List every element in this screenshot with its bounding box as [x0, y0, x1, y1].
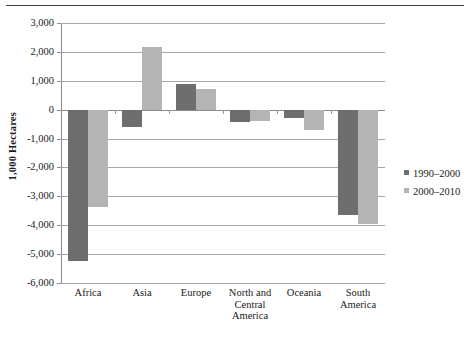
x-axis-category-label: Africa [61, 287, 115, 299]
y-axis-tick-label: 2,000 [30, 47, 54, 58]
bar [284, 110, 304, 118]
bar [142, 47, 162, 110]
x-axis-category-label: Europe [169, 287, 223, 299]
plot-area: 3,0002,0001,0000-1,000-2,000-3,000-4,000… [61, 23, 385, 283]
y-axis-tick [57, 254, 61, 255]
y-axis-tick [57, 167, 61, 168]
y-axis-tick-label: -2,000 [27, 162, 54, 173]
gridline-3000 [61, 23, 385, 24]
legend-item: 2000–2010 [404, 186, 460, 197]
x-axis-category-label: Oceania [277, 287, 331, 299]
y-axis-tick-label: -6,000 [27, 278, 54, 289]
y-axis-tick [57, 196, 61, 197]
y-axis-tick-label: -4,000 [27, 220, 54, 231]
bar [122, 110, 142, 127]
chart-legend: 1990–20002000–2010 [404, 168, 460, 204]
bar [250, 110, 270, 122]
y-axis-tick [57, 139, 61, 140]
x-axis-category-label: Asia [115, 287, 169, 299]
x-axis-category-label: South America [331, 287, 385, 310]
legend-swatch-icon [404, 188, 409, 193]
bar [304, 110, 324, 130]
legend-item: 1990–2000 [404, 168, 460, 179]
y-axis-line [61, 23, 62, 283]
gridline-2000 [61, 52, 385, 53]
gridline-1000 [61, 81, 385, 82]
bar [338, 110, 358, 215]
y-axis-tick-label: -5,000 [27, 249, 54, 260]
bar [230, 110, 250, 122]
category-separator-tick [169, 110, 170, 114]
y-axis-tick [57, 110, 61, 111]
category-separator-tick [115, 110, 116, 114]
bar [88, 110, 108, 207]
gridline-neg1000 [61, 139, 385, 140]
y-axis-tick [57, 225, 61, 226]
y-axis-title: 1,000 Hectares [7, 112, 18, 181]
top-divider-rule [6, 5, 464, 6]
y-axis-tick [57, 52, 61, 53]
bar [68, 110, 88, 262]
x-axis-line [61, 283, 385, 284]
legend-label: 2000–2010 [413, 186, 460, 197]
bar [196, 89, 216, 109]
category-separator-tick [223, 110, 224, 114]
bar [358, 110, 378, 225]
gridline-neg5000 [61, 254, 385, 255]
y-axis-tick-label: 3,000 [30, 18, 54, 29]
gridline-neg2000 [61, 167, 385, 168]
gridline-neg3000 [61, 196, 385, 197]
y-axis-tick-label: -1,000 [27, 133, 54, 144]
y-axis-tick-label: -3,000 [27, 191, 54, 202]
y-axis-tick [57, 23, 61, 24]
legend-label: 1990–2000 [413, 168, 460, 179]
legend-swatch-icon [404, 170, 409, 175]
y-axis-tick [57, 81, 61, 82]
bar-chart-figure: 1,000 Hectares 3,0002,0001,0000-1,000-2,… [0, 0, 470, 341]
y-axis-tick-label: 1,000 [30, 76, 54, 87]
x-axis-category-label: North and Central America [223, 287, 277, 322]
category-separator-tick [277, 110, 278, 114]
category-separator-tick [331, 110, 332, 114]
y-axis-tick-label: 0 [49, 104, 54, 115]
bar [176, 84, 196, 109]
gridline-neg4000 [61, 225, 385, 226]
